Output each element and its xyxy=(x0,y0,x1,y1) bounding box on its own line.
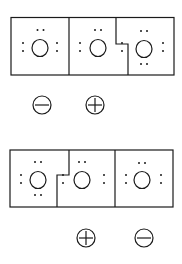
oxygen-atom-3 xyxy=(136,30,164,65)
plus-charge-icon xyxy=(86,96,104,114)
resonance-structure-2 xyxy=(10,150,173,247)
lone-pair-dots xyxy=(20,161,42,196)
outer-box xyxy=(10,150,173,207)
oxygen-atom-1 xyxy=(20,161,46,196)
lone-pair-dots xyxy=(125,162,162,184)
lone-pair-dots xyxy=(22,29,58,52)
divider-2-stepped xyxy=(116,18,128,76)
ozone-resonance-diagram xyxy=(0,0,182,264)
oxygen-atom-1 xyxy=(22,29,58,57)
minus-charge-icon xyxy=(33,96,51,114)
oxygen-atom-3 xyxy=(125,162,162,189)
plus-charge-icon xyxy=(77,229,95,247)
outer-box xyxy=(11,18,174,76)
minus-charge-icon xyxy=(135,229,153,247)
divider-1-stepped xyxy=(57,150,69,207)
resonance-structure-1 xyxy=(11,18,174,115)
